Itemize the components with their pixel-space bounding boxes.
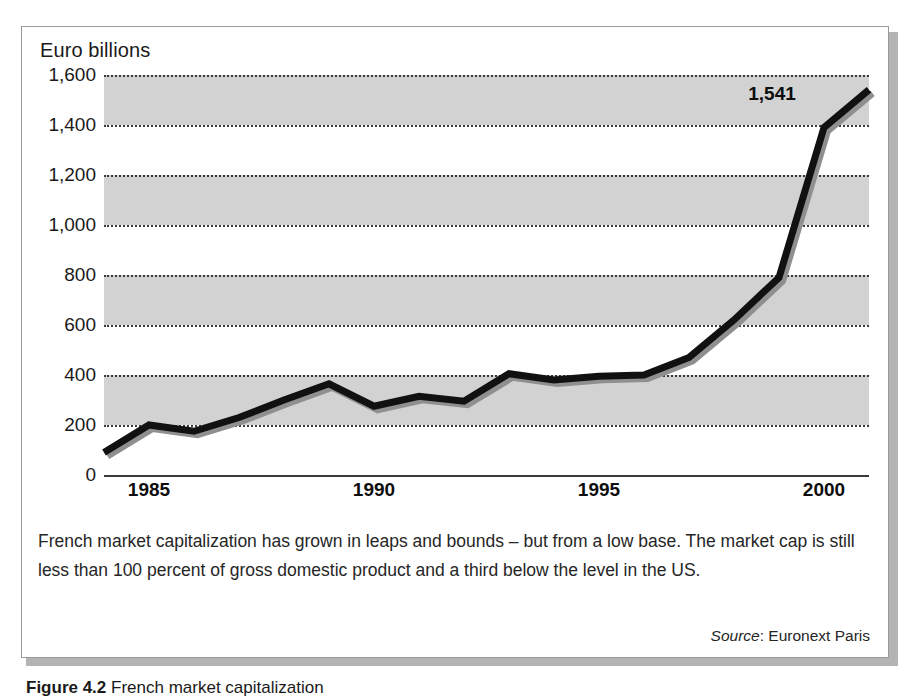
figure-number-caption: Figure 4.2 French market capitalization	[26, 678, 886, 700]
y-tick-label: 600	[64, 314, 96, 336]
y-tick-label: 800	[64, 264, 96, 286]
figure-caption-text: French market capitalization has grown i…	[38, 527, 874, 585]
y-tick-label: 1,200	[48, 164, 96, 186]
plot-area: 1,541	[104, 75, 869, 475]
y-tick-label: 1,400	[48, 114, 96, 136]
y-axis-tick-labels: 02004006008001,0001,2001,4001,600	[34, 75, 96, 475]
x-tick-label: 2000	[803, 479, 845, 501]
x-tick-label: 1990	[353, 479, 395, 501]
source-value: : Euronext Paris	[760, 627, 870, 644]
x-tick-label: 1995	[578, 479, 620, 501]
y-tick-label: 1,000	[48, 214, 96, 236]
y-tick-label: 200	[64, 414, 96, 436]
x-axis-line	[104, 475, 869, 477]
figure-number-title: French market capitalization	[106, 678, 323, 697]
x-tick-label: 1985	[128, 479, 170, 501]
y-tick-label: 0	[85, 464, 96, 486]
x-axis-tick-labels: 1985199019952000	[104, 479, 869, 513]
series-line	[104, 90, 869, 453]
y-axis-title: Euro billions	[40, 39, 150, 62]
source-line: Source: Euronext Paris	[711, 627, 870, 645]
figure-number: Figure 4.2	[26, 678, 106, 697]
figure-root: Euro billions 02004006008001,0001,2001,4…	[0, 0, 910, 700]
source-label: Source	[711, 627, 760, 644]
y-tick-label: 400	[64, 364, 96, 386]
y-tick-label: 1,600	[48, 64, 96, 86]
series-line-chart	[104, 75, 869, 475]
chart-area: 02004006008001,0001,2001,4001,600 1,541 …	[34, 75, 876, 517]
figure-box: Euro billions 02004006008001,0001,2001,4…	[21, 26, 889, 658]
series-line-shadow	[108, 93, 873, 456]
data-point-label: 1,541	[748, 83, 796, 105]
